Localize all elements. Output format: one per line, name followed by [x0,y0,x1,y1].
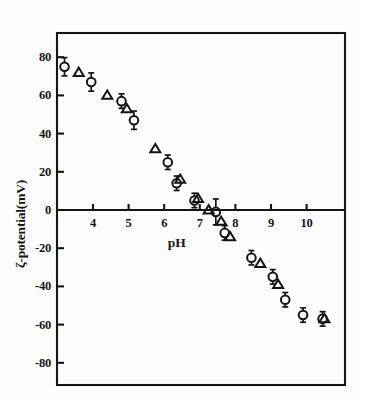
x-tick-label: 6 [144,217,184,230]
chart-canvas [0,0,366,404]
y-tick-label: -60 [35,319,51,332]
x-tick-label: 10 [287,217,327,230]
x-tick-label: 9 [251,217,291,230]
y-tick-label: 20 [39,166,51,179]
x-tick-label: 8 [215,217,255,230]
y-tick-label: 40 [39,128,51,141]
y-tick-label: -20 [35,242,51,255]
x-tick-label: 5 [109,217,149,230]
x-tick-label: 4 [73,217,113,230]
y-axis-title: ζ-potential(mV) [14,180,28,268]
x-axis-title: pH [137,236,217,250]
x-tick-label: 7 [180,217,220,230]
y-tick-label: 80 [39,51,51,64]
figure-panel: 806040200-20-40-60-80 45678910 pH ζ-pote… [0,0,366,404]
y-tick-label: -80 [35,357,51,370]
y-tick-label: -40 [35,280,51,293]
y-tick-label: 0 [45,204,51,217]
y-tick-label: 60 [39,89,51,102]
data-points [60,58,329,326]
